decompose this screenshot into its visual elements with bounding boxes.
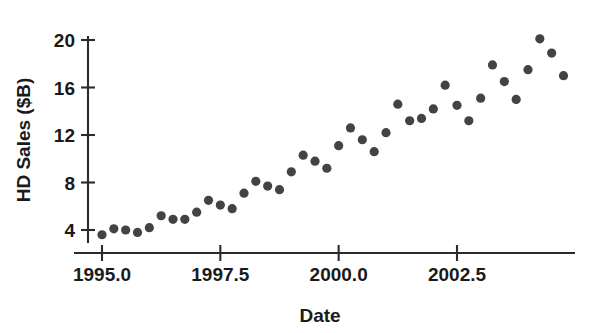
data-point bbox=[500, 77, 509, 86]
data-point bbox=[381, 128, 390, 137]
data-point bbox=[275, 185, 284, 194]
data-point bbox=[476, 94, 485, 103]
x-tick-label: 1995.0 bbox=[73, 264, 131, 285]
data-point bbox=[405, 116, 414, 125]
y-tick-label: 20 bbox=[54, 30, 75, 51]
data-point bbox=[239, 189, 248, 198]
data-point bbox=[393, 100, 402, 109]
data-point bbox=[121, 225, 130, 234]
data-point bbox=[559, 71, 568, 80]
y-tick-label: 12 bbox=[54, 125, 75, 146]
data-point bbox=[299, 151, 308, 160]
data-point bbox=[358, 135, 367, 144]
y-tick-label: 4 bbox=[64, 220, 75, 241]
x-tick-label: 2000.0 bbox=[310, 264, 368, 285]
data-point bbox=[216, 200, 225, 209]
data-point bbox=[547, 48, 556, 57]
data-point bbox=[512, 95, 521, 104]
data-point bbox=[441, 81, 450, 90]
data-point bbox=[310, 157, 319, 166]
y-axis-title: HD Sales ($B) bbox=[13, 78, 34, 203]
data-point bbox=[488, 60, 497, 69]
data-point bbox=[157, 211, 166, 220]
data-point bbox=[97, 230, 106, 239]
chart-canvas: 481216201995.01997.52000.02002.5DateHD S… bbox=[0, 0, 589, 333]
data-point bbox=[370, 147, 379, 156]
x-tick-label: 2002.5 bbox=[428, 264, 487, 285]
data-point bbox=[145, 223, 154, 232]
y-tick-label: 16 bbox=[54, 78, 75, 99]
y-tick-label: 8 bbox=[64, 173, 75, 194]
x-axis-title: Date bbox=[299, 305, 340, 326]
data-point bbox=[346, 123, 355, 132]
data-point bbox=[429, 104, 438, 113]
data-point bbox=[287, 167, 296, 176]
data-point bbox=[535, 34, 544, 43]
data-point bbox=[417, 114, 426, 123]
data-point bbox=[263, 181, 272, 190]
data-point bbox=[228, 204, 237, 213]
data-point bbox=[452, 101, 461, 110]
data-point bbox=[322, 164, 331, 173]
data-point bbox=[133, 228, 142, 237]
x-tick-label: 1997.5 bbox=[191, 264, 250, 285]
data-point bbox=[334, 141, 343, 150]
data-point bbox=[109, 224, 118, 233]
data-point bbox=[168, 215, 177, 224]
axis-labels-layer: 481216201995.01997.52000.02002.5DateHD S… bbox=[13, 30, 486, 326]
scatter-chart-figure: 481216201995.01997.52000.02002.5DateHD S… bbox=[0, 0, 589, 333]
data-points-layer bbox=[97, 34, 568, 239]
data-point bbox=[523, 65, 532, 74]
data-point bbox=[180, 215, 189, 224]
data-point bbox=[204, 196, 213, 205]
data-point bbox=[192, 208, 201, 217]
data-point bbox=[464, 116, 473, 125]
data-point bbox=[251, 177, 260, 186]
